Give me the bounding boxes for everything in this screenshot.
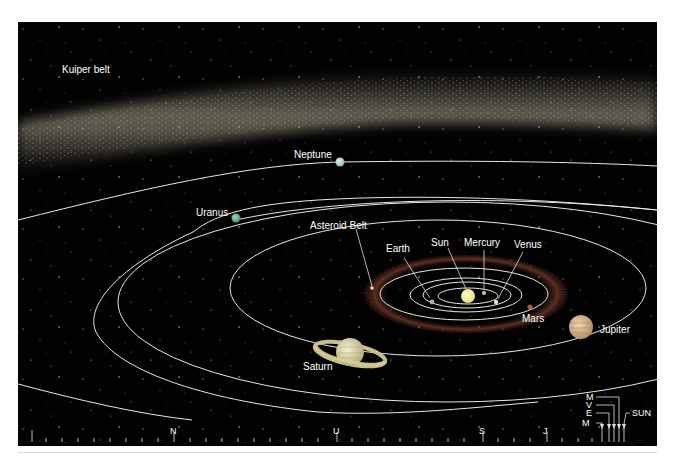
scale-label-neptune: N xyxy=(170,426,177,436)
planet-neptune xyxy=(336,158,345,167)
scale-label-uranus: U xyxy=(333,426,340,436)
scale-label-sun: SUN xyxy=(632,408,651,418)
asteroid-marker xyxy=(370,286,374,290)
scale-label-jupiter: J xyxy=(543,426,548,436)
planet-jupiter xyxy=(569,315,593,339)
label-mars: Mars xyxy=(522,313,544,324)
scale-label-mercury: M xyxy=(582,418,590,428)
planet-earth xyxy=(430,300,435,305)
label-earth: Earth xyxy=(386,243,410,254)
scale-label-earth: E xyxy=(586,408,592,418)
label-sun: Sun xyxy=(431,237,449,248)
kuiper-belt-label: Kuiper belt xyxy=(62,64,110,75)
planet-venus xyxy=(494,300,498,304)
planet-uranus xyxy=(232,214,241,223)
label-mercury: Mercury xyxy=(464,237,500,248)
label-uranus: Uranus xyxy=(196,207,228,218)
label-venus: Venus xyxy=(514,239,542,250)
label-jupiter: Jupiter xyxy=(600,324,631,335)
bottom-divider xyxy=(18,452,657,453)
label-asteroid-belt: Asteroid Belt xyxy=(310,220,367,231)
planet-mercury xyxy=(482,291,486,295)
planet-mars xyxy=(527,304,532,309)
diagram-canvas: Kuiper belt xyxy=(18,22,657,446)
solar-system-diagram: Kuiper belt xyxy=(18,22,657,446)
label-saturn: Saturn xyxy=(303,361,332,372)
label-neptune: Neptune xyxy=(294,149,332,160)
sun xyxy=(461,289,475,303)
scale-label-saturn: S xyxy=(479,426,485,436)
